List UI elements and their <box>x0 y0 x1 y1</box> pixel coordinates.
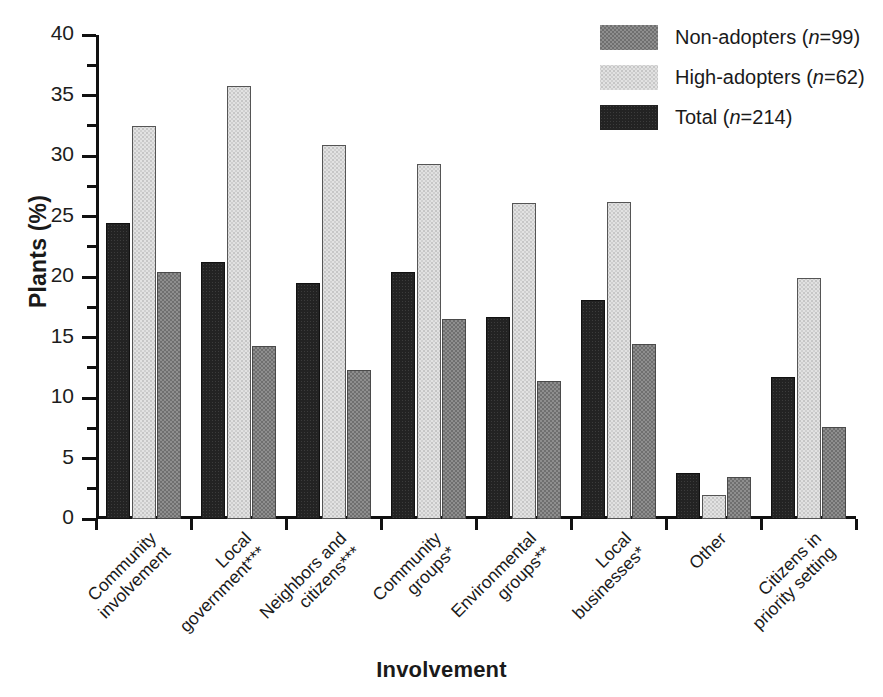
legend-swatch-gray-hatch <box>600 25 658 50</box>
y-tick-label: 30 <box>30 142 74 166</box>
y-tick-minor <box>87 64 96 67</box>
x-tick <box>760 519 763 530</box>
bar-high[interactable] <box>702 495 726 519</box>
chart-figure: Plants (%) 0510152025303540 Communityinv… <box>0 0 883 697</box>
bar-high[interactable] <box>797 278 821 519</box>
y-axis-title: Plants (%) <box>25 162 52 342</box>
y-tick-label: 0 <box>30 505 74 529</box>
y-tick-minor <box>87 427 96 430</box>
bar-non[interactable] <box>727 477 751 519</box>
legend-label: High-adopters (n=62) <box>675 66 865 89</box>
bar-non[interactable] <box>822 427 846 519</box>
category-label: Citizens inpriority setting <box>733 528 838 633</box>
bar-total[interactable] <box>201 262 225 519</box>
bar-high[interactable] <box>132 126 156 519</box>
bar-non[interactable] <box>347 370 371 519</box>
category-label: Communityinvolvement <box>79 528 173 622</box>
y-tick-label: 20 <box>30 263 74 287</box>
bar-total[interactable] <box>581 300 605 519</box>
legend-label: Total (n=214) <box>675 106 792 129</box>
legend-item[interactable]: Total (n=214) <box>600 102 865 133</box>
legend-swatch-light-dotted <box>600 65 658 90</box>
category-label: Environmentalgroups** <box>446 528 553 635</box>
bar-total[interactable] <box>106 223 130 519</box>
y-tick-major <box>82 155 96 158</box>
y-tick-minor <box>87 245 96 248</box>
bar-non[interactable] <box>252 346 276 519</box>
legend-item[interactable]: Non-adopters (n=99) <box>600 22 865 53</box>
bar-high[interactable] <box>417 164 441 519</box>
bar-group <box>391 35 466 519</box>
y-tick-minor <box>87 306 96 309</box>
x-axis-title: Involvement <box>0 657 883 683</box>
legend-label: Non-adopters (n=99) <box>675 26 860 49</box>
bar-total[interactable] <box>391 272 415 519</box>
bar-high[interactable] <box>227 86 251 519</box>
bar-total[interactable] <box>296 283 320 519</box>
y-tick-major <box>82 518 96 521</box>
x-tick <box>285 519 288 530</box>
y-tick-minor <box>87 185 96 188</box>
category-label: Localbusinesses* <box>554 528 649 623</box>
category-label: Other <box>685 528 730 573</box>
y-tick-minor <box>87 124 96 127</box>
x-tick <box>570 519 573 530</box>
bar-group <box>486 35 561 519</box>
category-label: Neighbors andcitizens*** <box>255 528 364 637</box>
legend: Non-adopters (n=99)High-adopters (n=62)T… <box>600 22 865 142</box>
bar-total[interactable] <box>771 377 795 519</box>
y-tick-label: 40 <box>30 21 74 45</box>
y-tick-label: 35 <box>30 82 74 106</box>
bar-non[interactable] <box>442 319 466 519</box>
y-tick-major <box>82 94 96 97</box>
legend-item[interactable]: High-adopters (n=62) <box>600 62 865 93</box>
bar-non[interactable] <box>537 381 561 519</box>
x-tick <box>665 519 668 530</box>
bar-total[interactable] <box>486 317 510 519</box>
y-tick-major <box>82 397 96 400</box>
x-tick <box>190 519 193 530</box>
category-label: Communitygroups* <box>368 528 459 619</box>
y-tick-label: 25 <box>30 203 74 227</box>
bar-high[interactable] <box>322 145 346 519</box>
y-tick-minor <box>87 487 96 490</box>
bar-non[interactable] <box>632 344 656 519</box>
bar-group <box>296 35 371 519</box>
y-tick-major <box>82 336 96 339</box>
category-label: Localgovernment*** <box>161 528 269 636</box>
x-tick <box>380 519 383 530</box>
y-tick-label: 10 <box>30 384 74 408</box>
y-tick-minor <box>87 366 96 369</box>
category-label-line: Other <box>685 528 730 573</box>
y-tick-major <box>82 215 96 218</box>
x-tick <box>95 519 98 530</box>
y-tick-major <box>82 457 96 460</box>
bar-high[interactable] <box>607 202 631 519</box>
legend-swatch-solid-dark <box>600 105 658 130</box>
bar-non[interactable] <box>157 272 181 519</box>
y-tick-label: 15 <box>30 324 74 348</box>
y-tick-label: 5 <box>30 445 74 469</box>
y-tick-major <box>82 34 96 37</box>
y-tick-major <box>82 276 96 279</box>
x-tick <box>475 519 478 530</box>
bar-group <box>201 35 276 519</box>
bar-group <box>106 35 181 519</box>
bar-high[interactable] <box>512 203 536 519</box>
bar-total[interactable] <box>676 473 700 519</box>
x-tick <box>855 519 858 530</box>
